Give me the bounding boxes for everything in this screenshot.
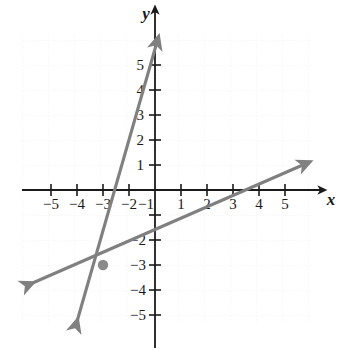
y-tick-label: 5 — [137, 57, 145, 73]
coordinate-plane-figure: −5 −4 −3 −2 −1 1 2 3 4 5 5 4 3 2 1 −2 −3… — [0, 0, 343, 356]
x-tick-label: −1 — [138, 196, 154, 212]
y-tick-label: 2 — [137, 132, 145, 148]
y-tick-label: −5 — [130, 307, 146, 323]
x-tick-label: 5 — [281, 196, 289, 212]
intersection-point — [98, 260, 108, 270]
x-tick-label: −4 — [69, 196, 85, 212]
x-tick-label: 3 — [229, 196, 237, 212]
grid-lines — [22, 33, 312, 323]
y-axis-label: y — [140, 4, 150, 23]
y-tick-label: −4 — [130, 282, 146, 298]
y-tick-label: −3 — [130, 257, 146, 273]
graph-svg: −5 −4 −3 −2 −1 1 2 3 4 5 5 4 3 2 1 −2 −3… — [0, 0, 343, 356]
x-tick-label: 1 — [177, 196, 185, 212]
x-tick-label: −5 — [43, 196, 59, 212]
x-tick-label: 4 — [255, 196, 263, 212]
y-tick-label: 1 — [137, 157, 145, 173]
x-axis-label: x — [326, 190, 336, 209]
x-tick-label: −2 — [121, 196, 137, 212]
